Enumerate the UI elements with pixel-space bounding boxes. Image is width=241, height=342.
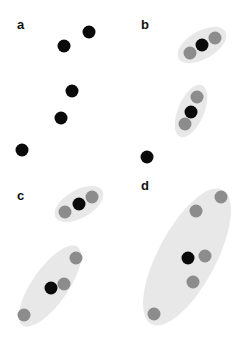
data-point-black <box>45 282 58 295</box>
data-point-gray <box>209 32 222 45</box>
panel-label: c <box>17 188 24 203</box>
panel-label: b <box>141 17 149 32</box>
data-point-black <box>185 106 198 119</box>
data-point-gray <box>58 278 71 291</box>
data-point-gray <box>59 206 72 219</box>
data-point-gray <box>187 276 200 289</box>
panel-a: a <box>16 17 96 157</box>
data-point-gray <box>179 118 192 131</box>
data-point-black <box>66 85 79 98</box>
data-point-gray <box>18 309 31 322</box>
data-point-gray <box>199 250 212 263</box>
panel-label: d <box>141 178 149 193</box>
data-point-gray <box>148 308 161 321</box>
data-point-black <box>58 40 71 53</box>
diagram-canvas: abcd <box>0 0 241 342</box>
data-point-gray <box>184 47 197 60</box>
data-point-black <box>182 252 195 265</box>
data-point-black <box>196 39 209 52</box>
clustering-diagram: abcd <box>0 0 241 342</box>
data-point-black <box>55 112 68 125</box>
panel-label: a <box>17 17 25 32</box>
data-point-gray <box>70 252 83 265</box>
panel-c: c <box>8 178 110 335</box>
data-point-black <box>16 144 29 157</box>
data-point-black <box>141 151 154 164</box>
data-point-black <box>83 26 96 39</box>
data-point-gray <box>190 205 203 218</box>
data-point-gray <box>191 91 204 104</box>
data-point-black <box>73 198 86 211</box>
panel-b: b <box>141 17 233 164</box>
data-point-gray <box>86 191 99 204</box>
data-point-gray <box>215 191 228 204</box>
panel-d: d <box>126 176 241 337</box>
